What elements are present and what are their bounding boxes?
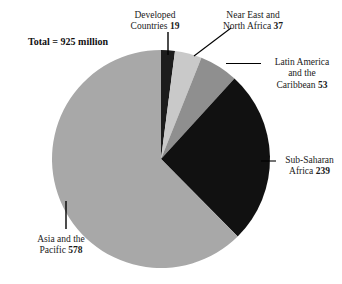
slice-label-line1: Asia and the [37, 234, 85, 244]
slice-value-latin-america-and-the-caribbean: 53 [318, 80, 328, 90]
slice-label-line2: North Africa [223, 21, 271, 31]
slice-label-line1: Sub-Saharan [285, 155, 334, 165]
slice-label-line2: and the [288, 68, 316, 78]
slice-value-asia-and-the-pacific: 578 [68, 245, 82, 255]
slice-value-sub-saharan-africa: 239 [316, 166, 330, 176]
slice-label-asia-and-the-pacific: Asia and the Pacific 578 [8, 234, 114, 257]
slice-label-line2: Pacific [39, 245, 65, 255]
slice-label-latin-america-and-the-caribbean: Latin America and the Caribbean 53 [262, 57, 342, 91]
pie-chart-figure: Total = 925 million Developed Countries … [0, 0, 342, 284]
slice-value-developed-countries: 19 [170, 21, 180, 31]
slice-label-developed-countries: Developed Countries 19 [109, 10, 201, 33]
slice-label-line2: Countries [131, 21, 168, 31]
slice-label-line1: Developed [134, 10, 175, 20]
slice-label-sub-saharan-africa: Sub-Saharan Africa 239 [277, 155, 342, 178]
slice-label-near-east-and-north-africa: Near East and North Africa 37 [196, 10, 310, 33]
slice-label-line2: Africa [289, 166, 313, 176]
slice-label-line3: Caribbean [277, 80, 316, 90]
slice-value-near-east-and-north-africa: 37 [274, 21, 284, 31]
slice-label-line1: Latin America [275, 57, 330, 67]
total-label: Total = 925 million [28, 36, 108, 47]
slice-label-line1: Near East and [226, 10, 279, 20]
